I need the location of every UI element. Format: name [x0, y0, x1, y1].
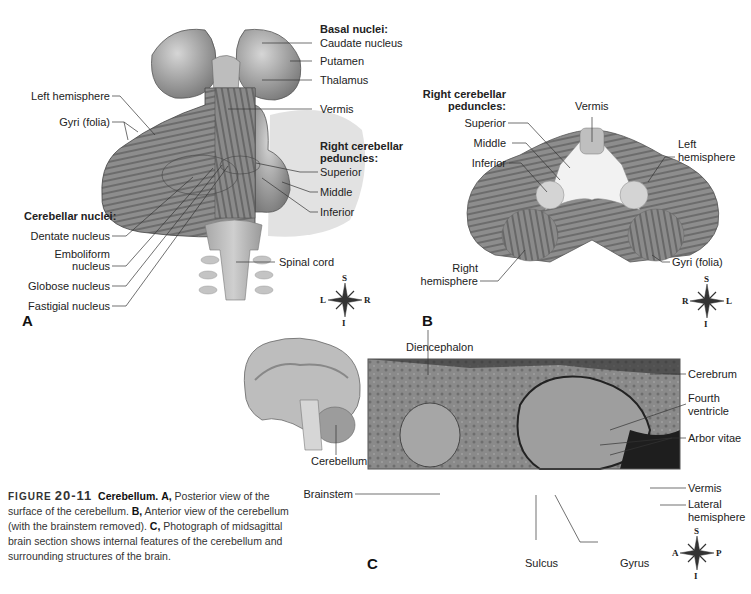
label-gyrus: Gyrus	[620, 557, 649, 570]
label-right-hemisphere-line2: hemisphere	[400, 275, 478, 288]
label-superior-a: Superior	[320, 166, 362, 179]
panel-letter-b: B	[422, 312, 433, 329]
label-thalamus: Thalamus	[320, 74, 368, 87]
label-inferior-b: Inferior	[400, 157, 506, 170]
heading-peduncles-a-line2: peduncles:	[320, 152, 378, 165]
heading-basal-nuclei: Basal nuclei:	[320, 23, 388, 36]
caption-c-key: C,	[150, 520, 161, 532]
label-gyri-b: Gyri (folia)	[672, 256, 723, 269]
label-dentate-nucleus: Dentate nucleus	[10, 230, 110, 243]
label-globose-nucleus: Globose nucleus	[10, 280, 110, 293]
compass-a-top: S	[342, 273, 347, 283]
panel-letter-a: A	[22, 312, 33, 329]
label-caudate-nucleus: Caudate nucleus	[320, 37, 403, 50]
label-spinal-cord: Spinal cord	[279, 256, 334, 269]
compass-b-top: S	[704, 274, 709, 284]
label-middle-a: Middle	[320, 186, 352, 199]
label-vermis-b: Vermis	[575, 100, 609, 113]
label-left-hemisphere-a: Left hemisphere	[10, 90, 110, 103]
caption-b-key: B,	[132, 505, 143, 517]
label-inferior-a: Inferior	[320, 206, 354, 219]
panel-c-brain-sketch	[244, 338, 360, 455]
label-diencephalon: Diencephalon	[406, 341, 473, 354]
label-putamen: Putamen	[320, 55, 364, 68]
label-emboliform-line2: nucleus	[10, 260, 110, 273]
label-fourth-ventricle-line2: ventricle	[688, 405, 729, 418]
label-lateral-hemisphere-line1: Lateral	[688, 498, 722, 511]
figure-number: 20-11	[55, 488, 93, 503]
compass-c-bottom: I	[694, 571, 698, 581]
label-arbor-vitae: Arbor vitae	[688, 432, 741, 445]
label-gyri-a: Gyri (folia)	[10, 116, 110, 129]
label-cerebellum: Cerebellum	[311, 455, 367, 468]
label-vermis-c: Vermis	[688, 482, 722, 495]
compass-a	[328, 283, 362, 317]
label-sulcus: Sulcus	[525, 557, 558, 570]
label-lateral-hemisphere-line2: hemisphere	[688, 511, 745, 524]
label-superior-b: Superior	[400, 117, 506, 130]
heading-peduncles-b-line2: peduncles:	[400, 100, 506, 113]
compass-a-right: R	[364, 295, 371, 305]
label-vermis-a: Vermis	[320, 103, 354, 116]
label-cerebrum: Cerebrum	[688, 368, 737, 381]
label-left-hemisphere-b-line1: Left	[678, 138, 696, 151]
panel-letter-c: C	[367, 555, 378, 572]
compass-c-left: A	[672, 548, 679, 558]
panel-c-photo	[355, 330, 686, 542]
compass-b-right: L	[726, 296, 732, 306]
caption-a-key: A,	[161, 490, 172, 502]
heading-cerebellar-nuclei: Cerebellar nuclei:	[24, 210, 116, 223]
label-middle-b: Middle	[400, 137, 506, 150]
figure-caption: FIGURE 20-11 Cerebellum. A, Posterior vi…	[8, 488, 293, 564]
compass-c	[680, 536, 714, 570]
compass-b	[690, 284, 724, 318]
compass-c-top: S	[694, 526, 699, 536]
figure-title: Cerebellum.	[98, 490, 158, 502]
label-fourth-ventricle-line1: Fourth	[688, 392, 720, 405]
compass-a-left: L	[320, 295, 326, 305]
compass-b-left: R	[682, 296, 689, 306]
figure-prefix: FIGURE	[8, 491, 52, 502]
label-right-hemisphere-line1: Right	[400, 262, 478, 275]
compass-a-bottom: I	[342, 318, 346, 328]
compass-c-right: P	[716, 548, 722, 558]
label-left-hemisphere-b-line2: hemisphere	[678, 151, 735, 164]
compass-b-bottom: I	[704, 319, 708, 329]
